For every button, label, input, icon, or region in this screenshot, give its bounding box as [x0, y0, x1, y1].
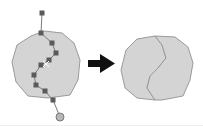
vertex-marker	[40, 11, 45, 16]
bottom-divider	[0, 125, 203, 126]
vertex-marker	[54, 51, 59, 56]
vertex-marker	[50, 41, 55, 46]
vertex-marker	[43, 89, 48, 94]
vertex-marker	[51, 98, 56, 103]
diagram-svg	[0, 0, 203, 134]
vertex-marker	[32, 73, 37, 78]
vertex-marker	[34, 83, 39, 88]
after-polygons-group	[121, 36, 193, 100]
vertex-marker	[39, 31, 44, 36]
end-point-marker	[56, 113, 64, 121]
before-polygon-group	[12, 11, 80, 122]
right-arrow-icon	[88, 54, 115, 73]
vertex-marker	[47, 58, 52, 63]
split-polygon-diagram	[0, 0, 203, 134]
